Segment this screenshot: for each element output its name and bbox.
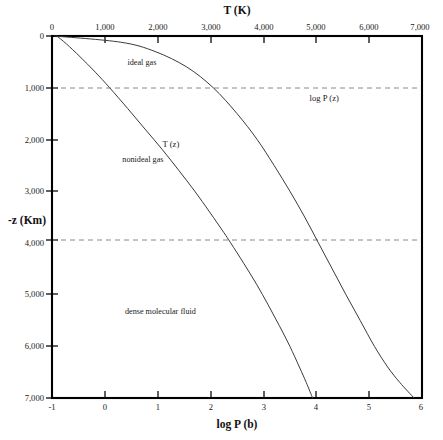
region-label-ideal-gas: ideal gas — [127, 58, 156, 67]
bottom-tick-label: 0 — [103, 402, 107, 412]
top-axis-title: T (K) — [224, 4, 251, 17]
curve-temperature — [57, 36, 313, 398]
bottom-tick-label: 5 — [367, 402, 371, 412]
top-tick-label: 3,000 — [201, 22, 220, 32]
data-curves — [55, 36, 414, 398]
bottom-tick-label: 4 — [314, 402, 319, 412]
bottom-tick-label: -1 — [48, 402, 55, 412]
gridlines — [52, 88, 422, 240]
top-tick-label: 0 — [50, 22, 54, 32]
y-tick-label: 5,000 — [25, 289, 44, 299]
bottom-tick-label: 1 — [156, 402, 160, 412]
y-tick-label: 3,000 — [25, 186, 44, 196]
top-tick-label: 5,000 — [306, 22, 325, 32]
y-tick-label: 6,000 — [25, 341, 44, 351]
curve-log-pressure — [55, 36, 414, 398]
bottom-tick-label: 2 — [209, 402, 213, 412]
region-label-dense-molecular-fluid: dense molecular fluid — [125, 307, 196, 316]
bottom-tick-label: 3 — [262, 402, 266, 412]
x-axis-title: log P (b) — [217, 418, 258, 431]
pressure-temperature-depth-chart: T (K) 0 1,000 2,000 3,000 4,000 5,000 6,… — [0, 0, 443, 440]
y-tick-label: 4,000 — [25, 238, 44, 248]
y-tick-label: 0 — [40, 31, 44, 41]
y-tick-label: 7,000 — [25, 393, 44, 403]
plot-frame — [52, 36, 422, 398]
top-tick-label: 1,000 — [95, 22, 114, 32]
bottom-axis-tick-labels: -1 0 1 2 3 4 5 6 — [48, 402, 423, 412]
curve-label-log-pressure: log P (z) — [310, 93, 339, 103]
bottom-tick-label: 6 — [419, 402, 424, 412]
curve-label-temperature: T (z) — [163, 139, 180, 149]
figure-container: T (K) 0 1,000 2,000 3,000 4,000 5,000 6,… — [0, 0, 443, 440]
top-tick-label: 4,000 — [254, 22, 273, 32]
region-label-nonideal-gas: nonideal gas — [122, 155, 163, 164]
top-axis-tick-labels: 0 1,000 2,000 3,000 4,000 5,000 6,000 7,… — [50, 22, 430, 32]
top-tick-label: 7,000 — [410, 22, 429, 32]
y-axis-title: -z (Km) — [8, 214, 46, 227]
y-tick-label: 2,000 — [25, 135, 44, 145]
top-tick-label: 2,000 — [148, 22, 167, 32]
y-tick-label: 1,000 — [25, 83, 44, 93]
top-tick-label: 6,000 — [359, 22, 378, 32]
